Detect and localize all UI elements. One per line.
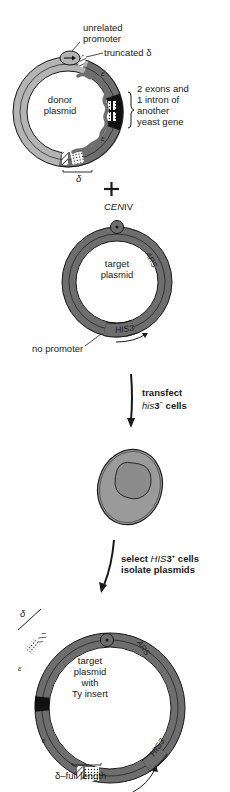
- cells-text: cells: [175, 553, 199, 564]
- promoter-label: unrelated promoter: [83, 22, 123, 44]
- insert-label-line2: 1 intron of: [137, 94, 189, 105]
- step-arrow-1: [127, 374, 135, 428]
- insert-label-line4: yeast gene: [137, 116, 189, 127]
- his-gene-text: HIS: [151, 553, 167, 564]
- promoter-label-line1: unrelated: [83, 22, 123, 33]
- result-epsilon-left: ε: [18, 663, 22, 674]
- cen-numeral: IV: [124, 201, 133, 212]
- step2-line1: select HIS3+ cells: [121, 551, 199, 564]
- his-gene-text: his: [142, 400, 154, 411]
- target-label-line2: plasmid: [92, 269, 142, 280]
- step-arrow-2: [99, 540, 114, 593]
- step1-label: transfect his3− cells: [142, 387, 187, 411]
- step1-line1: transfect: [142, 387, 187, 398]
- insert-label-line3: another: [137, 105, 189, 116]
- delta-full-length-label: δ–full length: [55, 770, 106, 781]
- select-text: select: [121, 553, 151, 564]
- cen-label: CENIV: [104, 201, 133, 212]
- donor-plasmid-label: donor plasmid: [38, 94, 82, 116]
- result-plasmid: [18, 609, 185, 792]
- yeast-cell: [89, 442, 170, 532]
- no-promoter-label: no promoter: [32, 343, 83, 354]
- target-plasmid-label: target plasmid: [92, 258, 142, 280]
- result-label-line1: target: [60, 655, 120, 666]
- result-epsilon-bottom: ε: [42, 735, 46, 746]
- result-label-line4: Ty insert: [60, 688, 120, 699]
- result-label-line2: plasmid: [60, 666, 120, 677]
- result-label-line3: with: [60, 677, 120, 688]
- cells-text: cells: [163, 400, 187, 411]
- step2-line2: isolate plasmids: [121, 564, 199, 575]
- donor-label-line2: plasmid: [38, 105, 82, 116]
- step2-label: select HIS3+ cells isolate plasmids: [121, 551, 199, 575]
- promoter-label-line2: promoter: [83, 33, 123, 44]
- donor-epsilon-bottom: ε: [101, 133, 105, 144]
- insert-label-line1: 2 exons and: [137, 83, 189, 94]
- result-delta-label: δ: [20, 608, 25, 619]
- cen-text: CEN: [104, 201, 124, 212]
- donor-epsilon-top: ε: [101, 68, 105, 79]
- donor-delta-label: δ: [76, 173, 81, 184]
- result-plasmid-label: target plasmid with Ty insert: [60, 655, 120, 699]
- donor-label-line1: donor: [38, 94, 82, 105]
- step1-line2: his3− cells: [142, 398, 187, 411]
- plus-sign: [104, 182, 119, 196]
- truncated-delta-label: truncated δ: [104, 47, 152, 58]
- target-label-line1: target: [92, 258, 142, 269]
- insert-label: 2 exons and 1 intron of another yeast ge…: [137, 83, 189, 127]
